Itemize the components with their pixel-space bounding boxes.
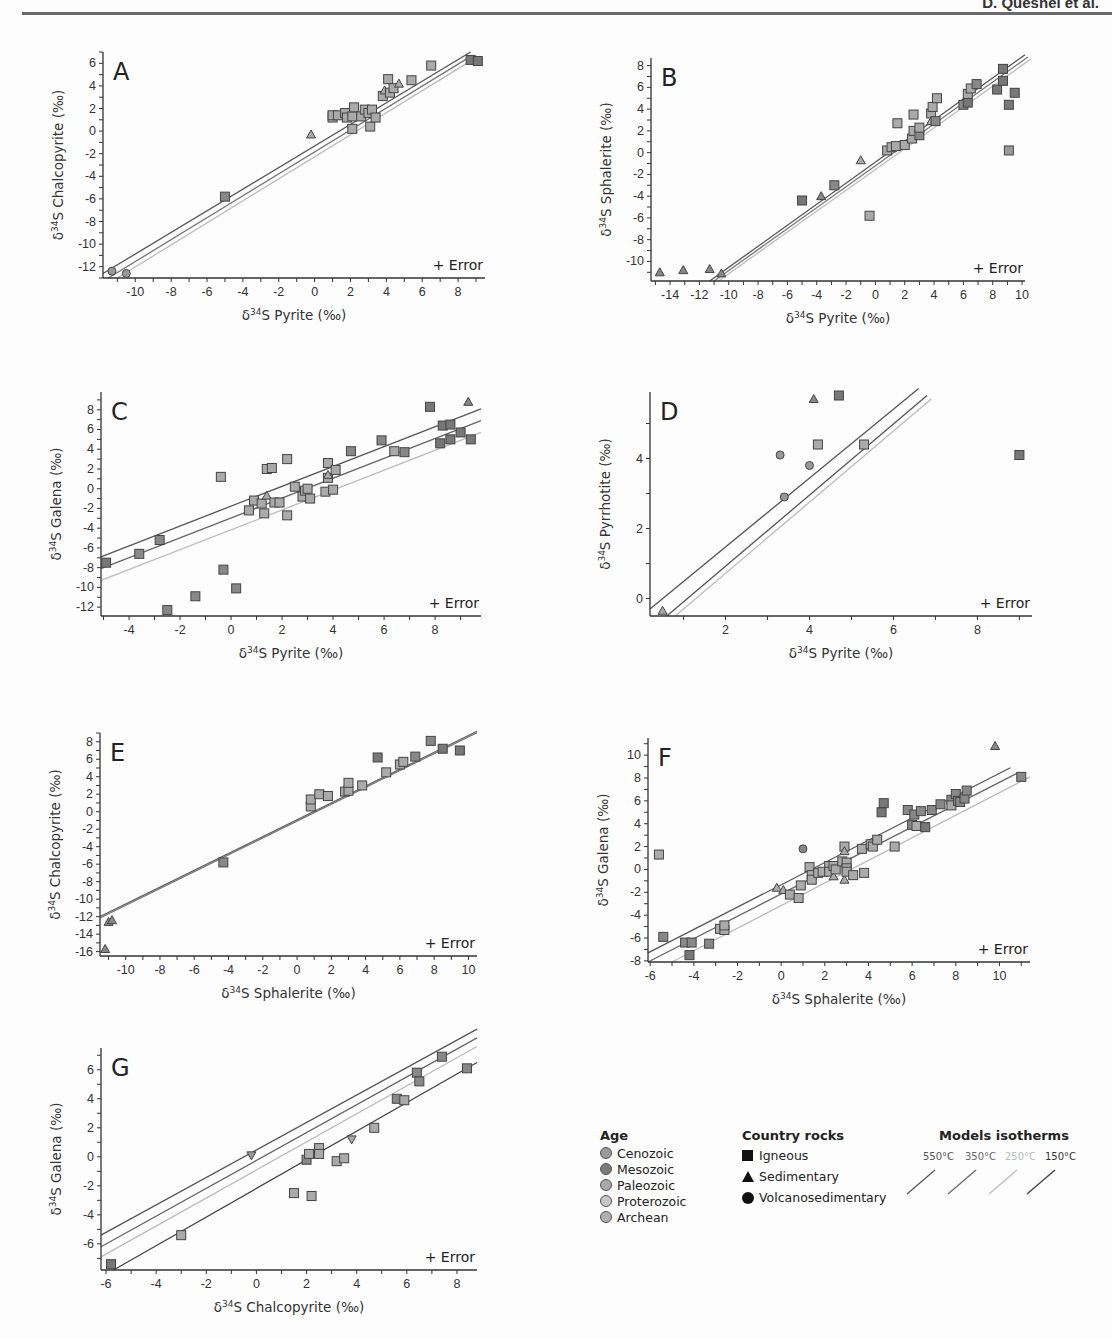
x-tick-label: 4 <box>806 623 813 637</box>
data-point <box>999 76 1008 85</box>
error-marker: + Error <box>980 595 1031 611</box>
y-axis-title: δ34S Sphalerite (‰) <box>598 102 614 236</box>
x-tick-label: -4 <box>237 285 248 299</box>
x-tick-label: 6 <box>909 969 916 983</box>
y-tick-label: -6 <box>630 931 641 945</box>
chart-panel-d: 2468420D+ Errorδ34S Pyrite (‰)δ34S Pyrrh… <box>570 312 1112 696</box>
y-tick-label: 8 <box>86 735 93 749</box>
data-point <box>865 211 874 220</box>
y-tick-label: 2 <box>634 840 641 854</box>
chart-panel-b: -14-12-10-8-6-4-2024681086420-2-4-6-8-10… <box>571 0 1105 361</box>
legend-rock-item: Igneous <box>742 1145 886 1166</box>
x-tick-label: 2 <box>722 623 729 637</box>
y-axis-title: δ34S Galena (‰) <box>595 793 611 906</box>
legend-rock-item: Sedimentary <box>742 1166 886 1187</box>
x-tick-label: 0 <box>872 288 879 302</box>
x-tick-label: 8 <box>453 1277 460 1291</box>
data-point <box>780 493 788 501</box>
data-point <box>107 1260 116 1269</box>
data-point <box>890 842 899 851</box>
y-tick-label: -6 <box>85 192 96 206</box>
y-axis-title: δ34S Pyrrhotite (‰) <box>597 438 613 570</box>
x-tick-label: 4 <box>931 288 938 302</box>
x-tick-label: 0 <box>228 623 235 637</box>
data-point <box>857 844 866 853</box>
y-tick-label: -4 <box>630 908 641 922</box>
y-tick-label: 2 <box>87 462 94 476</box>
x-tick-label: 2 <box>347 285 354 299</box>
x-tick-label: 2 <box>279 623 286 637</box>
error-marker: + Error <box>425 935 476 951</box>
x-tick-label: -6 <box>782 288 793 302</box>
y-axis-title: δ34S Chalcopyrite (‰) <box>47 769 63 920</box>
y-tick-label: 4 <box>636 452 643 466</box>
data-point <box>915 123 924 132</box>
data-point <box>993 85 1002 94</box>
y-tick-label: 2 <box>637 124 644 138</box>
data-point <box>307 130 316 138</box>
data-point <box>315 1149 324 1158</box>
data-point <box>283 455 292 464</box>
y-tick-label: -10 <box>78 237 96 251</box>
data-point <box>785 890 794 899</box>
panel-letter: B <box>661 64 677 92</box>
y-tick-label: -8 <box>82 875 93 889</box>
y-tick-label: 8 <box>634 771 641 785</box>
data-point <box>108 267 116 275</box>
y-tick-label: 0 <box>87 1150 94 1164</box>
y-axis-title: δ34S Galena (‰) <box>48 447 64 560</box>
data-point <box>462 1064 471 1073</box>
isotherm-line <box>101 421 481 569</box>
x-tick-label: 10 <box>1015 288 1029 302</box>
y-tick-label: 0 <box>86 805 93 819</box>
x-tick-label: 6 <box>403 1277 410 1291</box>
data-point <box>122 269 130 277</box>
data-point <box>1004 146 1013 155</box>
cenozoic-swatch-icon <box>600 1147 612 1159</box>
x-tick-label: -2 <box>732 969 743 983</box>
data-point <box>794 894 803 903</box>
y-tick-label: -10 <box>76 580 94 594</box>
data-point <box>427 61 436 70</box>
data-point <box>344 778 353 787</box>
data-point <box>931 117 940 126</box>
y-tick-label: -8 <box>83 561 94 575</box>
data-point <box>893 119 902 128</box>
y-tick-label: 4 <box>89 79 96 93</box>
data-point <box>371 113 380 122</box>
data-point <box>400 1096 409 1105</box>
data-point <box>473 57 482 66</box>
x-tick-label: -10 <box>126 285 144 299</box>
data-point <box>999 64 1008 73</box>
y-tick-label: -10 <box>626 254 644 268</box>
data-point <box>370 1123 379 1132</box>
error-marker: + Error <box>973 260 1024 276</box>
y-tick-label: -6 <box>83 541 94 555</box>
data-point <box>155 536 164 545</box>
y-tick-label: -16 <box>75 945 93 959</box>
data-point <box>679 266 688 274</box>
x-tick-label: 0 <box>253 1277 260 1291</box>
x-tick-label: 4 <box>353 1277 360 1291</box>
y-tick-label: 6 <box>86 752 93 766</box>
data-point <box>798 196 807 205</box>
y-tick-label: 6 <box>87 422 94 436</box>
data-point <box>412 1068 421 1077</box>
isotherm-line <box>100 731 477 916</box>
x-tick-label: 6 <box>890 623 897 637</box>
data-point <box>358 781 367 790</box>
data-point <box>426 736 435 745</box>
y-tick-label: 6 <box>637 80 644 94</box>
proterozoic-swatch-icon <box>600 1195 612 1207</box>
x-tick-label: -6 <box>100 1277 111 1291</box>
y-tick-label: 4 <box>637 102 644 116</box>
x-tick-label: -2 <box>201 1277 212 1291</box>
x-tick-label: -6 <box>201 285 212 299</box>
data-point <box>658 606 667 614</box>
y-tick-label: 4 <box>634 817 641 831</box>
y-tick-label: 0 <box>636 592 643 606</box>
panel-letter: E <box>110 739 125 767</box>
y-tick-label: -4 <box>83 1208 94 1222</box>
data-point <box>856 156 865 164</box>
legend-age: Age Cenozoic Mesozoic Paleozoic Proteroz… <box>600 1128 687 1225</box>
